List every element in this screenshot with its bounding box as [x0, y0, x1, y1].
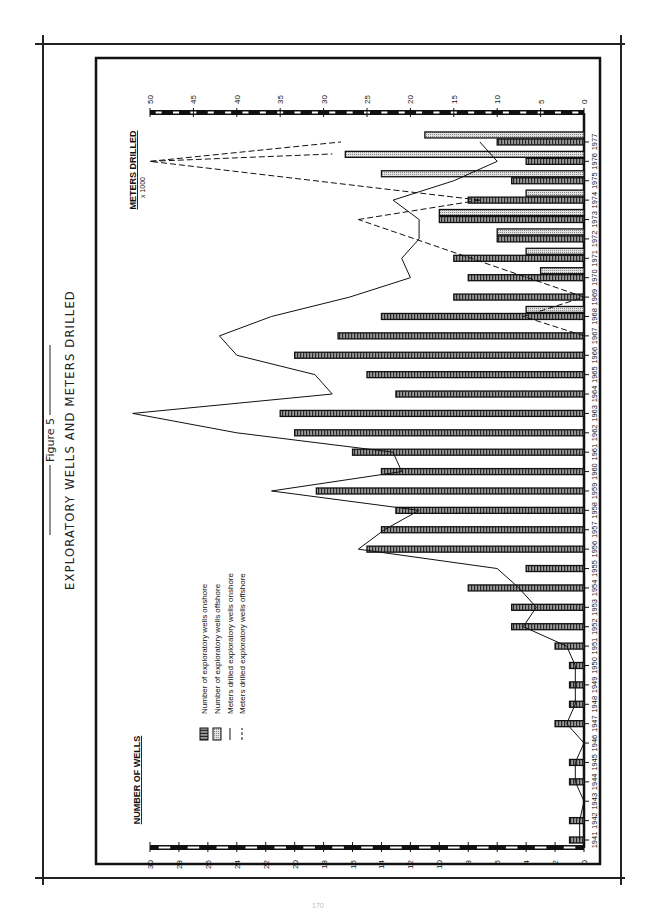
svg-text:NUMBER OF WELLS: NUMBER OF WELLS: [132, 736, 142, 825]
svg-text:1945: 1945: [590, 754, 599, 771]
onshore-bar: [555, 721, 584, 727]
onshore-bar: [512, 178, 584, 184]
onshore-bar: [570, 682, 584, 688]
onshore-bar: [468, 585, 584, 591]
onshore-bar: [570, 837, 584, 843]
svg-text:1955: 1955: [590, 560, 599, 577]
svg-text:5: 5: [537, 99, 546, 104]
svg-text:1975: 1975: [590, 172, 599, 189]
svg-text:1946: 1946: [590, 735, 599, 752]
svg-text:8: 8: [464, 859, 473, 864]
svg-text:Figure 5: Figure 5: [44, 418, 57, 462]
svg-text:20: 20: [291, 859, 300, 868]
svg-text:1974: 1974: [590, 192, 599, 209]
svg-text:1972: 1972: [590, 231, 599, 248]
onshore-bar: [454, 255, 584, 261]
svg-text:30: 30: [320, 95, 329, 104]
svg-text:1971: 1971: [590, 250, 599, 267]
svg-text:Number of exploratory wells on: Number of exploratory wells onshore: [200, 583, 209, 714]
offshore-bar: [345, 151, 584, 157]
onshore-bar: [570, 818, 584, 824]
svg-text:15: 15: [450, 95, 459, 104]
svg-text:1958: 1958: [590, 502, 599, 519]
svg-text:METERS DRILLED: METERS DRILLED: [128, 130, 138, 210]
svg-text:40: 40: [233, 95, 242, 104]
svg-text:1966: 1966: [590, 347, 599, 364]
onshore-bar: [316, 488, 584, 494]
svg-text:22: 22: [262, 859, 271, 868]
svg-text:1952: 1952: [590, 618, 599, 635]
svg-text:1956: 1956: [590, 541, 599, 558]
svg-text:1960: 1960: [590, 463, 599, 480]
svg-text:1948: 1948: [590, 696, 599, 713]
onshore-bar: [280, 410, 584, 416]
offshore-bar: [526, 248, 584, 254]
onshore-bar: [367, 546, 584, 552]
chart: Figure 5 EXPLORATORY WELLS AND METERS DR…: [0, 0, 651, 919]
svg-text:1969: 1969: [590, 289, 599, 306]
svg-text:1942: 1942: [590, 812, 599, 829]
onshore-bar: [555, 643, 584, 649]
svg-text:28: 28: [175, 859, 184, 868]
svg-text:35: 35: [276, 95, 285, 104]
svg-text:24: 24: [233, 859, 242, 868]
onshore-bar: [468, 197, 584, 203]
onshore-bar: [295, 430, 584, 436]
svg-text:12: 12: [406, 859, 415, 868]
offshore-bar: [439, 210, 584, 216]
svg-text:20: 20: [406, 95, 415, 104]
chart-title: EXPLORATORY WELLS AND METERS DRILLED: [63, 290, 77, 590]
svg-text:1944: 1944: [590, 773, 599, 790]
onshore-bar: [439, 217, 584, 223]
svg-text:1961: 1961: [590, 444, 599, 461]
onshore-bar: [526, 566, 584, 572]
svg-text:1962: 1962: [590, 424, 599, 441]
onshore-bar: [295, 352, 584, 358]
svg-text:50: 50: [146, 95, 155, 104]
onshore-bar: [526, 158, 584, 164]
onshore-bar: [353, 449, 584, 455]
svg-text:1954: 1954: [590, 580, 599, 597]
offshore-bar: [526, 190, 584, 196]
svg-text:1941: 1941: [590, 832, 599, 849]
svg-text:0: 0: [580, 99, 589, 104]
onshore-bar: [497, 236, 584, 242]
svg-text:6: 6: [493, 859, 502, 864]
svg-text:1943: 1943: [590, 793, 599, 810]
svg-text:1967: 1967: [590, 328, 599, 345]
svg-text:1953: 1953: [590, 599, 599, 616]
svg-text:10: 10: [435, 859, 444, 868]
svg-text:1949: 1949: [590, 677, 599, 694]
svg-text:2: 2: [551, 859, 560, 864]
onshore-bar: [396, 391, 584, 397]
offshore-bar: [541, 268, 584, 274]
svg-text:30: 30: [146, 859, 155, 868]
svg-text:1970: 1970: [590, 269, 599, 286]
svg-text:1950: 1950: [590, 657, 599, 674]
onshore-bar: [497, 139, 584, 145]
svg-text:1977: 1977: [590, 134, 599, 151]
onshore-bar: [381, 469, 584, 475]
onshore-bar: [381, 527, 584, 533]
wells-axis: 302826242220181614121086420 NUMBER OF WE…: [132, 736, 589, 869]
svg-text:1965: 1965: [590, 366, 599, 383]
svg-text:25: 25: [363, 95, 372, 104]
svg-text:14: 14: [377, 859, 386, 868]
svg-text:10: 10: [493, 95, 502, 104]
onshore-bar: [512, 604, 584, 610]
svg-text:Number of exploratory wells of: Number of exploratory wells offshore: [213, 583, 222, 714]
onshore-bar: [570, 662, 584, 668]
onshore-bar: [367, 372, 584, 378]
page-number: 170: [312, 902, 324, 909]
svg-text:18: 18: [320, 859, 329, 868]
offshore-bar: [425, 132, 584, 138]
svg-text:1963: 1963: [590, 405, 599, 422]
figure-label: Figure 5: [44, 345, 57, 535]
svg-text:45: 45: [189, 95, 198, 104]
svg-text:1947: 1947: [590, 715, 599, 732]
svg-text:1973: 1973: [590, 211, 599, 228]
offshore-bar: [526, 306, 584, 312]
onshore-bar: [338, 333, 584, 339]
legend: Number of exploratory wells onshore Numb…: [200, 573, 247, 741]
svg-text:1951: 1951: [590, 638, 599, 655]
